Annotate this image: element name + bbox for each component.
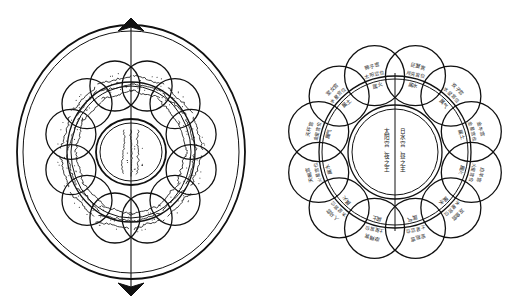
lobe [150,79,200,129]
house-label-group: 双子宫水星宫位属气 [434,80,467,113]
svg-text:水: 水 [400,133,407,140]
house-label-group: 室女宫水星宫位属土 [323,80,356,113]
svg-text:王: 王 [384,166,391,172]
house-label-group: 双鱼宫木星宫位属水 [434,191,467,224]
arabic-rosette-svg [0,0,264,304]
lobe-arabic-text [129,205,166,233]
center-text-column-left: 太阳宫、夜之王 [384,127,391,172]
figure-canvas: 巨蟹宫月亮宫位属水双子宫水星宫位属气金牛宫金星宫位属土白羊宫火星宫位属火双鱼宫木… [0,0,527,304]
svg-text:主: 主 [400,165,407,172]
house-element-label: 属土 [340,97,353,110]
lobe-arabic-text [68,84,106,122]
svg-text:、: 、 [384,147,391,153]
svg-text:、: 、 [400,147,407,153]
lobe [150,175,200,225]
house-element-label: 属土 [456,128,466,140]
lobe [62,79,112,129]
svg-text:昼: 昼 [400,153,407,159]
house-element-label: 属水 [407,80,420,91]
zodiac-wheel-svg: 巨蟹宫月亮宫位属水双子宫水星宫位属气金牛宫金星宫位属土白羊宫火星宫位属火双鱼宫木… [264,0,527,304]
house-element-label: 属火 [372,81,383,90]
center-text-column-right: 日水宫、昼之主 [400,128,407,172]
house-label-group: 人马宫木星宫位属火 [323,191,356,224]
zodiac-wheel-panel: 巨蟹宫月亮宫位属水双子宫水星宫位属气金牛宫金星宫位属土白羊宫火星宫位属火双鱼宫木… [264,0,527,304]
house-element-label: 属气 [323,128,333,140]
house-element-label: 属气 [407,213,419,223]
arabic-rosette-panel [0,0,264,304]
lobe-arabic-text [67,181,106,220]
house-element-label: 属火 [341,194,353,206]
house-element-label: 属水 [323,163,334,176]
house-element-label: 属气 [437,97,450,110]
house-element-label: 属火 [456,164,465,175]
lobe-arabic-text [129,71,166,100]
lobe-arabic-text [96,70,135,100]
center-arabic-text [121,130,143,176]
lobe [62,175,112,225]
house-element-label: 属土 [371,213,383,223]
